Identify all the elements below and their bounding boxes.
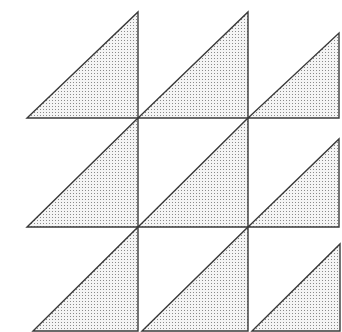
triangle-grid-diagram <box>0 0 342 332</box>
triangle-r3c2 <box>142 227 248 331</box>
triangle-r3c1 <box>33 227 138 331</box>
triangles-group <box>27 12 340 331</box>
triangle-r2c1 <box>27 118 138 227</box>
triangle-r2c2 <box>138 118 248 227</box>
triangle-r1c2 <box>138 12 248 118</box>
triangle-r3c3 <box>252 244 340 331</box>
triangle-r1c1 <box>27 12 138 118</box>
triangle-r1c3 <box>248 33 339 118</box>
triangle-r2c3 <box>248 139 339 227</box>
